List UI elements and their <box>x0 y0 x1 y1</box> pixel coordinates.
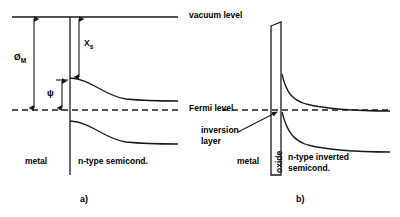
inversion-layer-label-line2: layer <box>201 136 221 146</box>
panel-b-semiconductor-label-line1: n-type inverted <box>288 152 349 162</box>
conduction-band-curve-b <box>282 74 390 111</box>
conduction-band-curve-a <box>70 78 178 101</box>
panel-b-metal-label: metal <box>237 156 259 166</box>
panel-b-semiconductor-label-line2: semicond. <box>288 163 330 173</box>
band-diagram-figure: vacuum level Fermi level ØM Xs ψ metal n… <box>0 0 400 217</box>
phi-symbol: Ø <box>14 52 21 62</box>
phi-subscript: M <box>21 57 26 64</box>
fermi-level-label: Fermi level <box>189 103 233 113</box>
valence-band-curve-b <box>282 112 390 152</box>
inversion-layer-label-line1: inversion <box>201 125 239 135</box>
panel-a-metal-label: metal <box>25 156 47 166</box>
metal-work-function-label: ØM <box>14 52 26 66</box>
band-bending-label: ψ <box>47 88 54 98</box>
vacuum-level-label: vacuum level <box>189 10 242 20</box>
chi-subscript: s <box>90 43 94 50</box>
oxide-label: oxide <box>274 151 284 173</box>
panel-a-caption: a) <box>80 194 88 204</box>
valence-band-curve-a <box>70 121 178 144</box>
electron-affinity-label: Xs <box>84 38 93 52</box>
panel-a-semiconductor-label: n-type semicond. <box>78 156 148 166</box>
panel-b-caption: b) <box>296 194 305 204</box>
